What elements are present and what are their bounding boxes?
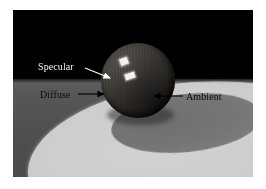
- sphere-terminator: [101, 43, 175, 118]
- figure-root: Specular Diffuse Ambient: [0, 0, 266, 189]
- label-specular: Specular: [38, 61, 74, 72]
- sphere: [101, 43, 175, 118]
- label-ambient: Ambient: [186, 91, 222, 102]
- label-diffuse: Diffuse: [40, 89, 71, 100]
